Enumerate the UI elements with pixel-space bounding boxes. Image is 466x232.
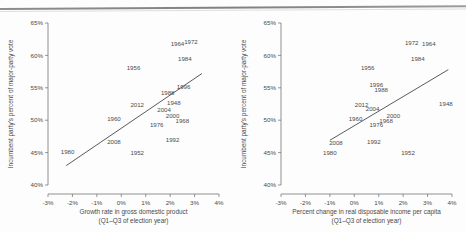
data-point-label: 1984: [178, 55, 192, 62]
y-tick-label: 65%: [31, 19, 44, 26]
x-tick-label: 0%: [117, 199, 126, 206]
data-point-label: 2008: [107, 138, 121, 145]
x-tick-label: -2%: [300, 199, 312, 206]
x-tick-label: 3%: [190, 199, 199, 206]
data-point-label: 1948: [439, 100, 453, 107]
data-point-label: 1980: [323, 149, 337, 156]
x-tick-label: 2%: [399, 199, 408, 206]
data-point-labels: 1948195219561960196419681972197619801984…: [323, 39, 453, 156]
data-point-label: 2008: [329, 139, 343, 146]
x-tick-label: 1%: [141, 199, 150, 206]
y-tick-label: 40%: [31, 181, 44, 188]
y-axis-title: Incumbent party's percent of major-party…: [7, 39, 15, 168]
data-point-label: 2012: [130, 101, 144, 108]
x-axis-title-line2: (Q1–Q3 of election year): [332, 217, 402, 225]
income-scatter-panel: 40%45%50%55%60%65%-3%-2%-1%0%1%2%3%4%194…: [233, 0, 466, 232]
data-point-label: 1988: [161, 89, 175, 96]
data-point-label: 1976: [369, 121, 383, 128]
x-tick-label: -1%: [91, 199, 103, 206]
data-point-label: 1972: [405, 39, 419, 46]
x-tick-label: -3%: [275, 199, 287, 206]
data-point-label: 1952: [401, 149, 415, 156]
data-point-label: 1956: [127, 64, 141, 71]
data-point-label: 1964: [422, 40, 436, 47]
x-tick-label: 2%: [166, 199, 175, 206]
y-tick-label: 65%: [264, 19, 277, 26]
data-point-label: 2000: [387, 112, 401, 119]
regression-line: [330, 70, 448, 141]
x-tick-label: -2%: [67, 199, 79, 206]
data-point-label: 1980: [61, 148, 75, 155]
x-tick-label: 4%: [448, 199, 457, 206]
y-tick-label: 60%: [31, 52, 44, 59]
data-point-label: 1972: [184, 38, 198, 45]
y-axis: 40%45%50%55%60%65%: [31, 19, 48, 188]
x-axis: -3%-2%-1%0%1%2%3%4%: [42, 194, 223, 206]
y-tick-label: 40%: [264, 181, 277, 188]
data-point-label: 1952: [130, 149, 144, 156]
gdp-plot-svg: 40%45%50%55%60%65%-3%-2%-1%0%1%2%3%4%194…: [0, 0, 233, 232]
x-axis-title-line2: (Q1–Q3 of election year): [99, 217, 169, 225]
x-tick-label: 4%: [215, 199, 224, 206]
y-tick-label: 45%: [264, 149, 277, 156]
data-point-label: 2004: [157, 106, 171, 113]
data-point-label: 1996: [177, 83, 191, 90]
data-point-label: 1996: [369, 81, 383, 88]
gdp-scatter-panel: 40%45%50%55%60%65%-3%-2%-1%0%1%2%3%4%194…: [0, 0, 233, 232]
data-point-label: 2012: [355, 101, 369, 108]
data-point-label: 1976: [150, 121, 164, 128]
x-axis-title-line1: Percent change in real disposable income…: [292, 208, 441, 216]
data-point-label: 1964: [171, 40, 185, 47]
figure-page: 40%45%50%55%60%65%-3%-2%-1%0%1%2%3%4%194…: [0, 0, 466, 232]
y-tick-label: 55%: [264, 84, 277, 91]
y-tick-label: 50%: [264, 116, 277, 123]
data-point-label: 1960: [107, 115, 121, 122]
y-tick-label: 55%: [31, 84, 44, 91]
data-point-label: 1956: [361, 64, 375, 71]
x-tick-label: -3%: [42, 199, 54, 206]
y-axis: 40%45%50%55%60%65%: [264, 19, 281, 188]
data-point-labels: 1948195219561960196419681972197619801984…: [61, 38, 199, 156]
y-tick-label: 60%: [264, 52, 277, 59]
data-point-label: 1960: [349, 115, 363, 122]
y-tick-label: 50%: [31, 116, 44, 123]
data-point-label: 1992: [166, 136, 180, 143]
data-point-label: 1992: [367, 138, 381, 145]
data-point-label: 1948: [167, 99, 181, 106]
y-tick-label: 45%: [31, 149, 44, 156]
x-tick-label: -1%: [324, 199, 336, 206]
x-axis: -3%-2%-1%0%1%2%3%4%: [275, 194, 456, 206]
y-axis-title: Incumbent party's percent of major-party…: [240, 39, 248, 168]
x-tick-label: 1%: [374, 199, 383, 206]
x-tick-label: 0%: [350, 199, 359, 206]
x-axis-title-line1: Growth rate in gross domestic product: [80, 208, 188, 216]
income-plot-svg: 40%45%50%55%60%65%-3%-2%-1%0%1%2%3%4%194…: [233, 0, 466, 232]
x-tick-label: 3%: [423, 199, 432, 206]
data-point-label: 1984: [411, 55, 425, 62]
